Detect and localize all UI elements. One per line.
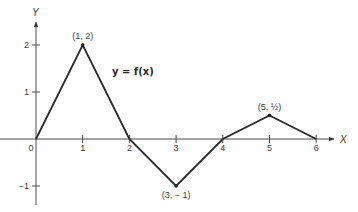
x-tick-label: 1 <box>80 143 85 153</box>
y-tick-label: 1 <box>24 87 29 97</box>
y-ticks: 21−1 <box>19 40 40 191</box>
function-curve <box>36 45 316 186</box>
x-axis-title: X <box>339 134 347 145</box>
data-point <box>81 43 85 47</box>
point-label: (1, 2) <box>72 31 93 41</box>
x-axis: X 0123456 <box>0 134 347 153</box>
x-tick-label: 2 <box>127 143 132 153</box>
x-tick-label: 6 <box>314 143 319 153</box>
x-tick-label: 5 <box>267 143 272 153</box>
y-tick-label: −1 <box>19 181 29 191</box>
y-axis-title: Y <box>32 7 40 18</box>
point-label: (5, ½) <box>258 102 282 112</box>
function-graph: X 0123456 Y 21−1 (1, 2)(3, − 1)(5, ½) y … <box>0 0 358 212</box>
annotated-points: (1, 2)(3, − 1)(5, ½) <box>72 31 281 200</box>
y-axis: Y 21−1 <box>19 7 40 205</box>
x-tick-label: 4 <box>220 143 225 153</box>
x-tick-label: 0 <box>28 143 33 153</box>
function-label: y = f(x) <box>112 66 154 77</box>
data-point <box>174 184 178 188</box>
x-tick-label: 3 <box>174 143 179 153</box>
y-tick-label: 2 <box>24 40 29 50</box>
data-point <box>268 114 272 118</box>
point-label: (3, − 1) <box>162 190 191 200</box>
x-ticks: 0123456 <box>28 135 318 153</box>
